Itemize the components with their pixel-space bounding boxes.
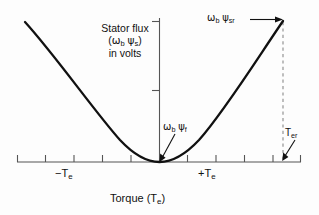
field-flux-omega-subscript: b (171, 125, 175, 134)
field-flux-psi-subscript: f (185, 125, 187, 134)
rated-torque-label: Ter (285, 127, 298, 139)
negative-te-symbol: −T (55, 167, 68, 179)
y-axis-title-line1: Stator flux (89, 22, 161, 34)
x-axis-title-text: Torque (T (110, 192, 157, 204)
rated-torque-subscript: er (291, 131, 297, 140)
psi-s-subscript: s (135, 39, 139, 48)
positive-te-subscript: e (211, 172, 215, 181)
rated-flux-psi-subscript: sr (229, 16, 235, 25)
x-axis-title-tail: ) (161, 192, 165, 204)
x-axis-title-subscript: e (157, 197, 161, 206)
stator-flux-torque-figure: Stator flux (ωb ψs) in volts ωb ψsr ωb ψ… (0, 0, 319, 215)
psi-s-symbol: ψ (128, 34, 135, 46)
rated-flux-label: ωb ψsr (207, 12, 235, 24)
y-axis-title-line3: in volts (89, 47, 161, 59)
field-flux-psi-symbol: ψ (178, 121, 185, 132)
rated-torque-arrow (282, 140, 295, 161)
field-flux-label: ωb ψf (163, 121, 187, 133)
positive-te-symbol: +T (198, 167, 211, 179)
y-axis-title: Stator flux (ωb ψs) in volts (89, 22, 161, 60)
negative-te-subscript: e (68, 172, 72, 181)
y-axis-title-line2: (ωb ψs) (89, 34, 161, 47)
rated-flux-omega-subscript: b (215, 16, 219, 25)
x-tick-label-negative-te: −Te (55, 167, 73, 180)
field-flux-arrow (160, 134, 176, 162)
rated-flux-arrow (250, 16, 283, 22)
x-axis-title: Torque (Te) (110, 192, 165, 205)
omega-b-subscript: b (120, 39, 124, 48)
rated-flux-psi-symbol: ψ (222, 12, 229, 23)
y-axis-paren-close: ) (138, 34, 142, 46)
x-tick-label-positive-te: +Te (198, 167, 216, 180)
